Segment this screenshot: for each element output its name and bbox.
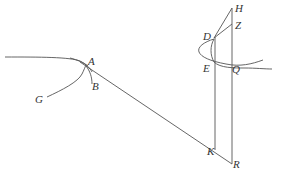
line-d-z <box>214 24 232 38</box>
label-g: G <box>35 93 43 105</box>
label-q: Q <box>232 63 240 75</box>
label-k: K <box>206 145 215 157</box>
curve-left-to-a <box>5 57 92 72</box>
label-d: D <box>202 30 211 42</box>
label-h: H <box>234 2 244 14</box>
label-e: E <box>202 62 210 74</box>
geometric-diagram: A B G H Z D E Q K R <box>0 0 281 178</box>
label-b: B <box>92 80 99 92</box>
label-r: R <box>232 158 240 170</box>
line-d-h <box>214 8 232 38</box>
label-z: Z <box>235 19 242 31</box>
label-a: A <box>87 55 95 67</box>
curve-g <box>47 65 86 97</box>
